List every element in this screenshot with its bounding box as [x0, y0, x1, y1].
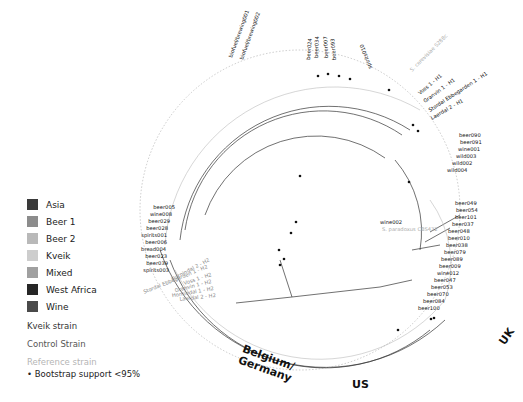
strain-type-legend: Kveik strain Control Strain Reference st…	[27, 317, 97, 371]
legend-item-beer1: Beer 1	[27, 213, 97, 230]
top-leaf-labels: biofuel/brewing001 biofuel/brewing002 be…	[227, 9, 374, 69]
svg-text:beer038: beer038	[446, 242, 468, 248]
svg-text:beer028: beer028	[146, 225, 168, 231]
svg-text:beer089: beer089	[441, 256, 463, 262]
svg-text:S. paradoxus CBS432: S. paradoxus CBS432	[382, 226, 438, 233]
svg-text:beer005: beer005	[153, 204, 175, 210]
svg-text:beer037: beer037	[452, 221, 474, 227]
svg-text:wine008: wine008	[150, 211, 172, 217]
left-leaf-labels: beer005wine008 beer029beer028 spirits001…	[141, 204, 175, 274]
svg-text:beer091: beer091	[460, 139, 482, 145]
legend-item-kveik: Kveik	[27, 247, 97, 264]
control-strain-label: Control Strain	[27, 335, 97, 353]
svg-text:spirits010: spirits010	[359, 43, 374, 70]
svg-text:beer047: beer047	[434, 277, 456, 283]
svg-text:wine001: wine001	[458, 146, 480, 152]
population-legend: Asia Beer 1 Beer 2 Kveik Mixed West Afri…	[27, 196, 97, 315]
legend-item-asia: Asia	[27, 196, 97, 213]
svg-text:beer100: beer100	[418, 305, 440, 311]
svg-text:beer006: beer006	[145, 239, 167, 245]
bootstrap-dots	[278, 73, 436, 332]
svg-text:beer093: beer093	[329, 38, 337, 60]
svg-text:beer049: beer049	[455, 200, 477, 206]
svg-text:beer029: beer029	[148, 218, 170, 224]
svg-text:spirits001: spirits001	[141, 232, 167, 239]
svg-text:beer101: beer101	[455, 214, 477, 220]
legend-swatch-icon	[27, 216, 38, 227]
svg-text:beer084: beer084	[423, 298, 445, 304]
svg-text:beer090: beer090	[459, 132, 481, 138]
light-branches	[165, 87, 451, 359]
legend-swatch-icon	[27, 301, 38, 312]
svg-text:beer010: beer010	[448, 235, 470, 241]
svg-text:bread004: bread004	[141, 246, 167, 252]
region-label-us: US	[352, 378, 369, 391]
svg-text:beer048: beer048	[448, 228, 470, 234]
legend-item-wine: Wine	[27, 298, 97, 315]
legend-swatch-icon	[27, 233, 38, 244]
legend-swatch-icon	[27, 267, 38, 278]
svg-text:beer039: beer039	[146, 260, 168, 266]
svg-text:wine002: wine002	[380, 219, 402, 225]
legend-item-beer2: Beer 2	[27, 230, 97, 247]
svg-text:beer009: beer009	[439, 263, 461, 269]
leaf-labels: beer049beer054beer101 beer037beer048beer…	[380, 132, 482, 311]
legend-item-mixed: Mixed	[27, 264, 97, 281]
kveik-h1-labels: Voss 1 - H1 Granvin 1 - H1 Stordal Ebbeg…	[408, 33, 488, 121]
svg-text:beer007: beer007	[322, 36, 329, 58]
leaf-tick-ring	[140, 50, 460, 370]
svg-text:beer034: beer034	[313, 35, 320, 58]
svg-text:wine012: wine012	[437, 270, 459, 276]
svg-text:beer053: beer053	[431, 284, 453, 290]
svg-text:beer070: beer070	[427, 291, 449, 297]
bootstrap-note: • Bootstrap support <95%	[27, 369, 140, 379]
svg-text:beer024: beer024	[305, 37, 313, 60]
svg-text:beer079: beer079	[444, 249, 466, 255]
svg-text:wild003: wild003	[456, 153, 476, 159]
svg-text:beer023: beer023	[145, 253, 167, 259]
svg-text:wild004: wild004	[447, 167, 468, 173]
legend-item-west-africa: West Africa	[27, 281, 97, 298]
legend-swatch-icon	[27, 199, 38, 210]
legend-swatch-icon	[27, 250, 38, 261]
svg-text:spirits003: spirits003	[143, 267, 169, 274]
legend-swatch-icon	[27, 284, 38, 295]
kveik-strain-label: Kveik strain	[27, 317, 97, 335]
svg-text:wild002: wild002	[452, 160, 472, 166]
svg-text:S. cerevisiae S288c: S. cerevisiae S288c	[408, 33, 448, 73]
svg-text:beer054: beer054	[456, 207, 478, 213]
